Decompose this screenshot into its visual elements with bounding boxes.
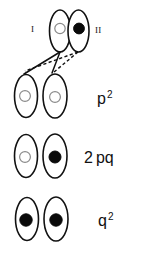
genotype-row-2pq-allele-right-filled-circle xyxy=(49,151,61,163)
gamete-label-II: II xyxy=(95,26,102,35)
frequency-label-q-squared: q2 xyxy=(98,212,113,229)
gamete-label-I: I xyxy=(31,25,34,34)
frequency-base-pq: pq xyxy=(96,149,114,166)
gamete-allele-II-filled-circle xyxy=(74,23,85,34)
genotype-row-q2-allele-left-filled-circle xyxy=(20,214,32,226)
frequency-coefficient-2: 2 xyxy=(84,149,93,166)
genotype-row-p2-allele-left-open-circle xyxy=(20,91,31,102)
diagram-svg xyxy=(0,0,142,255)
frequency-label-p-squared: p2 xyxy=(97,90,112,107)
genotype-row-q2-group xyxy=(16,197,69,241)
connector-dashed-left xyxy=(25,52,78,71)
connector-dashed-right xyxy=(54,52,78,72)
genotype-row-p2-group xyxy=(15,74,68,118)
gamete-pair-group xyxy=(50,10,90,52)
frequency-exponent-p: 2 xyxy=(107,89,113,100)
genotype-row-2pq-allele-left-open-circle xyxy=(20,152,31,163)
gamete-allele-I-open-circle xyxy=(55,23,65,33)
genotype-row-q2-allele-right-filled-circle xyxy=(50,214,62,226)
genotype-row-p2-allele-right-open-circle xyxy=(50,92,61,103)
frequency-base-p: p xyxy=(97,90,106,107)
inheritance-connectors-group xyxy=(24,52,78,74)
frequency-label-two-pq: 2pq xyxy=(84,150,114,166)
genotype-row-2pq-group xyxy=(15,134,68,178)
frequency-exponent-q: 2 xyxy=(108,211,114,222)
genetics-diagram-canvas: I II p2 2pq q2 xyxy=(0,0,142,255)
frequency-base-q: q xyxy=(98,212,107,229)
